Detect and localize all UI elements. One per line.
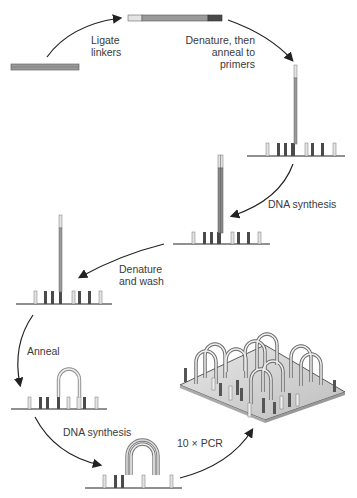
label-anneal: Anneal <box>27 345 60 357</box>
label-denature-wash: Denature and wash <box>119 263 164 287</box>
label-dna-synthesis-1: DNA synthesis <box>268 198 336 210</box>
surface-3 <box>16 215 112 304</box>
label-ligate-linkers: Ligate linkers <box>91 34 121 58</box>
ligated-fragment <box>128 15 222 21</box>
label-line: Denature <box>119 263 164 275</box>
arrow-dna-synthesis-2 <box>35 417 100 465</box>
label-dna-synthesis-2: DNA synthesis <box>63 426 131 438</box>
label-denature-anneal: Denature, then anneal to primers <box>175 34 255 70</box>
label-line: Anneal <box>27 345 60 357</box>
label-line: primers <box>175 58 255 70</box>
label-line: DNA synthesis <box>268 198 336 210</box>
surface-4 <box>11 369 107 409</box>
label-line: DNA synthesis <box>63 426 131 438</box>
surface-2 <box>173 155 270 244</box>
label-line: 10 × PCR <box>177 437 223 449</box>
surface-5 <box>85 440 182 488</box>
label-pcr: 10 × PCR <box>177 437 223 449</box>
label-line: Denature, then <box>175 34 255 46</box>
label-line: anneal to <box>175 46 255 58</box>
label-line: linkers <box>91 46 121 58</box>
flow-cell-clusters <box>180 334 345 423</box>
diagram-canvas <box>0 0 357 498</box>
dna-fragment <box>11 64 79 70</box>
label-line: and wash <box>119 275 164 287</box>
label-line: Ligate <box>91 34 121 46</box>
surface-1 <box>247 65 345 156</box>
